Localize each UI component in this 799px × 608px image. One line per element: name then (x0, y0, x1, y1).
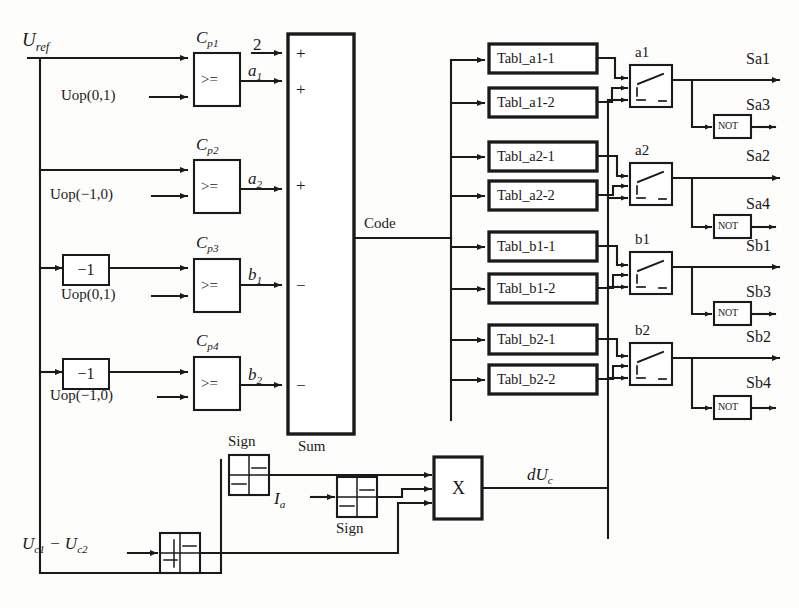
uop-label-m1-0-bottom: Uop(−1,0) (50, 388, 113, 403)
sum-sign-3: + (296, 177, 306, 194)
not-sa4-label: NOT (718, 221, 738, 231)
comparator-op-cp1: >= (201, 72, 218, 87)
output-sa3-label: Sa3 (746, 97, 770, 113)
comparator-op-cp4: >= (201, 376, 218, 391)
uop-label-0-1-bottom: Uop(0,1) (61, 287, 116, 302)
du-c-label: dUc (527, 466, 553, 487)
sign-middle-label: Sign (336, 521, 364, 536)
switch-b1-label: b1 (635, 232, 650, 247)
output-sb2-label: Sb2 (746, 329, 771, 345)
signal-label-a1: a1 (248, 62, 262, 83)
code-bus-label: Code (364, 216, 396, 231)
switch-a1-label: a1 (635, 45, 649, 60)
comparator-title-cp4: Cp4 (196, 332, 219, 353)
tabl-b1-2-label: Tabl_b1-2 (497, 281, 556, 296)
multiplier-label: X (452, 479, 465, 497)
tabl-a2-1-label: Tabl_a2-1 (497, 149, 555, 164)
signal-label-b2: b2 (248, 366, 262, 387)
sum-sign-4: − (296, 277, 306, 294)
input-label-uc-diff: Uc1 − Uc2 (22, 535, 88, 556)
sign-top-label: Sign (228, 434, 256, 449)
uop-label-0-1-top: Uop(0,1) (61, 88, 116, 103)
signal-label-a2: a2 (248, 170, 262, 191)
sum-sign-5: − (296, 377, 306, 394)
output-sb4-label: Sb4 (746, 375, 771, 391)
comparator-title-cp2: Cp2 (196, 136, 219, 157)
sum-sign-2: + (296, 81, 306, 98)
switch-b2-label: b2 (635, 323, 650, 338)
sum-block-label: Sum (298, 439, 326, 454)
comparator-title-cp1: Cp1 (196, 29, 219, 50)
not-sb4-label: NOT (718, 402, 738, 412)
output-sb3-label: Sb3 (746, 284, 771, 300)
uop-label-m1-0-top: Uop(−1,0) (50, 187, 113, 202)
diagram-canvas: Uref Uop(0,1) Uop(−1,0) Uop(0,1) Uop(−1,… (0, 0, 799, 608)
output-sa1-label: Sa1 (746, 51, 770, 67)
gain-minus-one-1: −1 (62, 254, 110, 286)
comparator-op-cp3: >= (201, 278, 218, 293)
tabl-a1-1-label: Tabl_a1-1 (497, 51, 555, 66)
tabl-b1-1-label: Tabl_b1-1 (497, 239, 556, 254)
sum-sign-1: + (296, 45, 306, 62)
output-sa2-label: Sa2 (746, 148, 770, 164)
tabl-a2-2-label: Tabl_a2-2 (497, 188, 555, 203)
input-label-ia: Ia (274, 490, 285, 511)
comparator-title-cp3: Cp3 (196, 234, 219, 255)
constant-two-label: 2 (253, 36, 262, 53)
comparator-op-cp2: >= (201, 179, 218, 194)
not-sa3-label: NOT (718, 121, 738, 131)
switch-a2-label: a2 (635, 143, 649, 158)
tabl-b2-1-label: Tabl_b2-1 (497, 332, 556, 347)
not-sb3-label: NOT (718, 308, 738, 318)
gain-minus-one-2: −1 (62, 358, 110, 390)
diagram-wires (0, 0, 799, 608)
input-label-uref: Uref (22, 30, 49, 53)
signal-label-b1: b1 (248, 266, 262, 287)
output-sa4-label: Sa4 (746, 196, 770, 212)
tabl-a1-2-label: Tabl_a1-2 (497, 95, 555, 110)
tabl-b2-2-label: Tabl_b2-2 (497, 372, 556, 387)
output-sb1-label: Sb1 (746, 238, 771, 254)
